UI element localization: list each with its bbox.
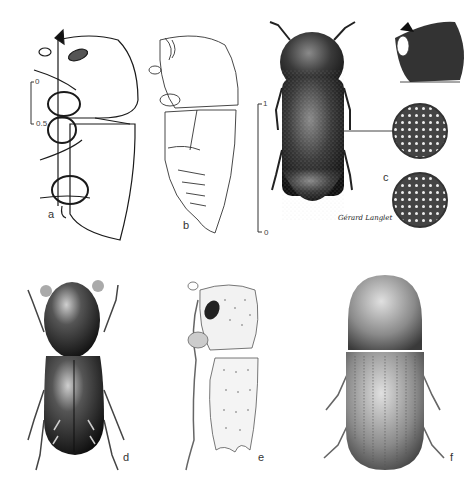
panel-f-beetle: [324, 275, 444, 470]
panel-label-b: b: [183, 220, 189, 231]
panel-label-a: a: [48, 209, 54, 220]
figure-plate: a b c d e f 0 0.5 1 0 Gérard Langlet: [0, 0, 475, 500]
panel-e-beetle: [186, 282, 258, 470]
panel-label-e: e: [258, 452, 264, 463]
scale-c-bottom: 0: [264, 229, 268, 237]
scale-a-bottom: 0.5: [36, 120, 47, 128]
artist-signature: Gérard Langlet: [338, 214, 392, 222]
scale-bar-c: [258, 104, 262, 232]
scale-c-top: 1: [263, 100, 267, 108]
panel-b-beetle: [149, 36, 238, 233]
panel-label-d: d: [123, 452, 129, 463]
panel-d-beetle: [28, 280, 124, 470]
panel-label-c: c: [383, 172, 389, 183]
scale-a-top: 0: [35, 78, 39, 86]
panel-c-beetle: [270, 22, 464, 227]
illustrations: [0, 0, 475, 500]
panel-label-f: f: [450, 452, 453, 463]
scale-bar-a: [31, 82, 34, 124]
